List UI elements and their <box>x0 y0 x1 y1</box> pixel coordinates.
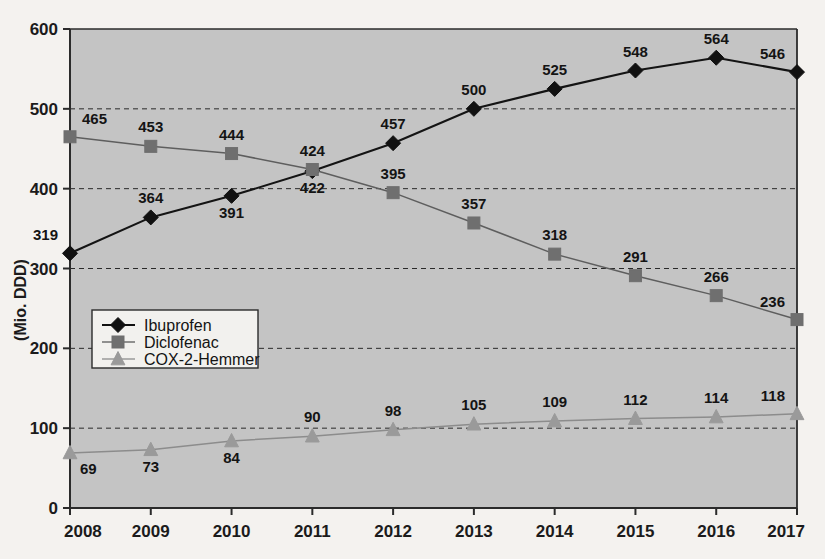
x-tick-label-2009: 2009 <box>132 522 170 541</box>
y-tick-label-0: 0 <box>49 499 58 518</box>
y-tick-label-200: 200 <box>30 339 58 358</box>
x-tick-label-2016: 2016 <box>697 522 735 541</box>
data-label-ibuprofen-2013: 500 <box>461 81 486 98</box>
data-point-diclofenac-2013 <box>468 217 480 229</box>
data-label-ibuprofen-2015: 548 <box>623 43 648 60</box>
x-tick-label-2012: 2012 <box>374 522 412 541</box>
data-label-diclofenac-2015: 291 <box>623 248 648 265</box>
data-point-diclofenac-2016 <box>710 290 722 302</box>
data-label-cox-2-hemmer-2016: 114 <box>704 389 729 406</box>
x-tick-label-2017: 2017 <box>767 522 805 541</box>
data-point-diclofenac-2017 <box>791 314 803 326</box>
data-label-cox-2-hemmer-2012: 98 <box>385 402 402 419</box>
x-tick-label-2013: 2013 <box>455 522 493 541</box>
data-label-diclofenac-2012: 395 <box>381 165 406 182</box>
data-label-cox-2-hemmer-2011: 90 <box>304 408 321 425</box>
x-tick-label-2010: 2010 <box>213 522 251 541</box>
data-label-diclofenac-2011: 424 <box>300 142 326 159</box>
data-label-ibuprofen-2012: 457 <box>381 115 406 132</box>
y-tick-label-500: 500 <box>30 100 58 119</box>
legend-square-icon <box>112 336 124 348</box>
data-label-diclofenac-2008: 465 <box>82 110 107 127</box>
data-label-diclofenac-2009: 453 <box>138 118 163 135</box>
data-label-cox-2-hemmer-2010: 84 <box>223 449 240 466</box>
data-label-diclofenac-2016: 266 <box>704 268 729 285</box>
x-tick-label-2015: 2015 <box>617 522 655 541</box>
y-axis-title: (Mio. DDD) <box>12 259 29 341</box>
data-label-ibuprofen-2017: 546 <box>760 45 785 62</box>
data-label-cox-2-hemmer-2008: 69 <box>80 460 97 477</box>
data-label-diclofenac-2013: 357 <box>461 195 486 212</box>
y-tick-label-600: 600 <box>30 20 58 39</box>
data-label-diclofenac-2014: 318 <box>542 226 567 243</box>
data-label-cox-2-hemmer-2009: 73 <box>142 458 159 475</box>
y-tick-label-300: 300 <box>30 260 58 279</box>
data-label-ibuprofen-2008: 319 <box>33 226 58 243</box>
line-chart: 0100200300400500600200820092010201120122… <box>0 0 825 559</box>
data-point-diclofenac-2008 <box>64 131 76 143</box>
y-tick-label-100: 100 <box>30 419 58 438</box>
data-point-diclofenac-2010 <box>226 148 238 160</box>
data-label-ibuprofen-2010: 391 <box>219 204 244 221</box>
x-tick-label-2008: 2008 <box>64 522 102 541</box>
data-point-diclofenac-2012 <box>387 187 399 199</box>
data-point-diclofenac-2015 <box>629 270 641 282</box>
x-tick-label-2014: 2014 <box>536 522 574 541</box>
data-label-diclofenac-2010: 444 <box>219 126 245 143</box>
data-label-cox-2-hemmer-2017: 118 <box>761 387 785 404</box>
data-label-ibuprofen-2016: 564 <box>704 30 730 47</box>
legend-label-0: Ibuprofen <box>144 317 212 334</box>
data-point-diclofenac-2009 <box>145 140 157 152</box>
data-point-diclofenac-2011 <box>306 164 318 176</box>
data-label-cox-2-hemmer-2013: 105 <box>461 396 486 413</box>
data-label-diclofenac-2017: 236 <box>760 293 785 310</box>
y-tick-label-400: 400 <box>30 180 58 199</box>
data-label-cox-2-hemmer-2015: 112 <box>623 391 647 408</box>
data-label-ibuprofen-2011: 422 <box>300 179 325 196</box>
data-point-diclofenac-2014 <box>549 248 561 260</box>
x-tick-label-2011: 2011 <box>294 522 331 541</box>
data-label-ibuprofen-2014: 525 <box>542 61 567 78</box>
data-label-ibuprofen-2009: 364 <box>138 189 164 206</box>
chart-canvas: 0100200300400500600200820092010201120122… <box>0 0 825 559</box>
legend-label-2: COX-2-Hemmer <box>144 351 260 368</box>
data-label-cox-2-hemmer-2014: 109 <box>542 393 567 410</box>
legend-label-1: Diclofenac <box>144 334 219 351</box>
